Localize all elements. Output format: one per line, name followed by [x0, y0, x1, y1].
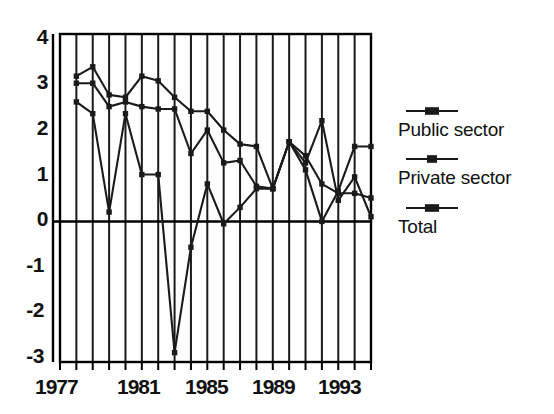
legend-entry-private-sector: Private sector: [398, 152, 554, 189]
x-tick-marks: [60, 362, 371, 370]
legend-entry-total: Total: [398, 201, 554, 238]
legend-label: Public sector: [398, 119, 554, 141]
legend-label: Private sector: [398, 167, 554, 189]
chart-page: 4 3 2 1 0 -1 -2 -3 1977 1981 1985 1989 1…: [0, 0, 554, 414]
legend-entry-public-sector: Public sector: [398, 104, 554, 141]
legend-label: Total: [398, 216, 554, 238]
chart-legend: Public sector Private sector Total: [398, 104, 554, 249]
legend-marker-icon: [404, 201, 460, 215]
legend-marker-icon: [404, 152, 460, 166]
plot-area: [0, 0, 392, 414]
legend-marker-icon: [404, 104, 460, 118]
line-chart: 4 3 2 1 0 -1 -2 -3 1977 1981 1985 1989 1…: [0, 0, 392, 414]
